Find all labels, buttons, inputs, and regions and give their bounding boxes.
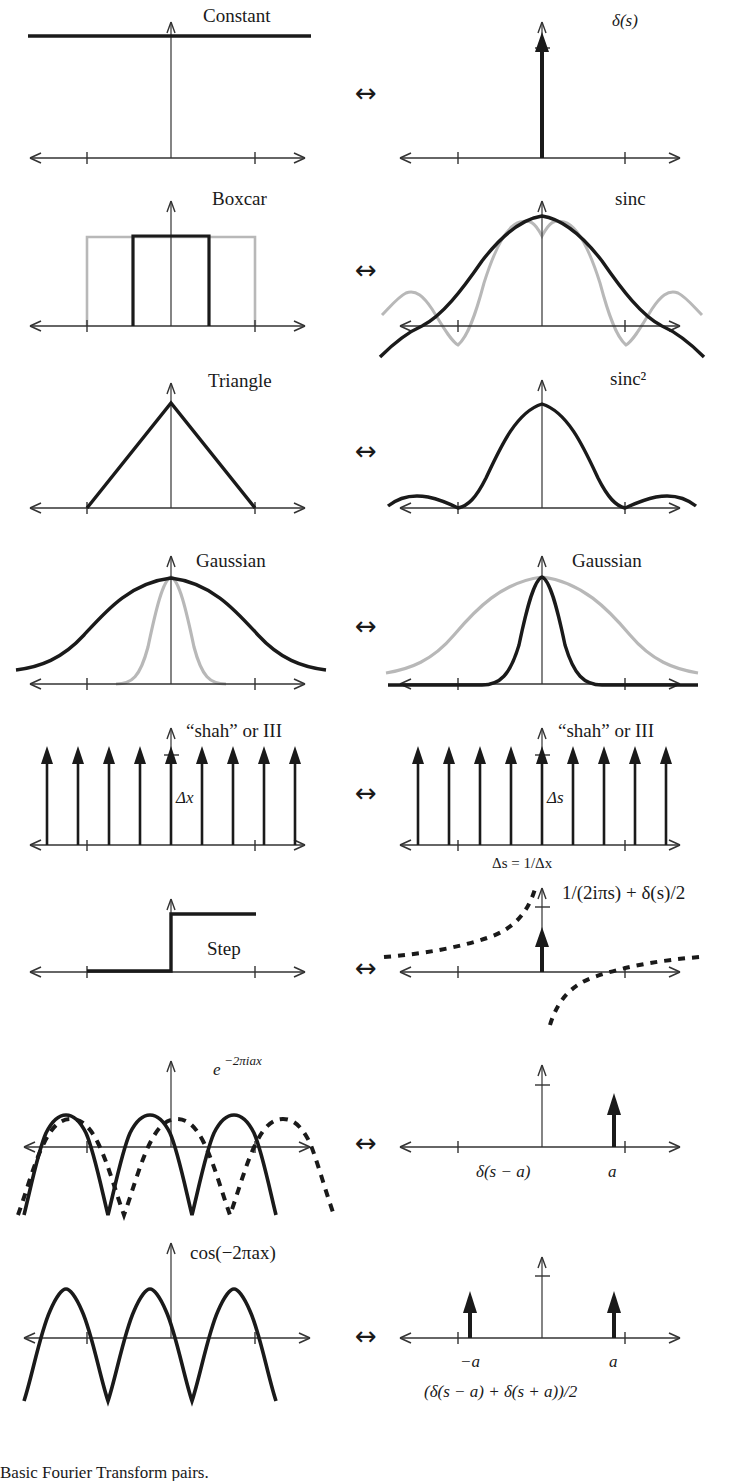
figure-caption: Basic Fourier Transform pairs. <box>0 1466 732 1481</box>
panel-shifted-delta: δ(s − a) a <box>372 1035 732 1205</box>
panel-label-gaussian-s: Gaussian <box>572 550 642 571</box>
panel-complex-exponential: e −2πiax <box>0 1035 360 1205</box>
panel-shah-s: “shah” or III Δs Δs = 1/Δx <box>372 710 732 875</box>
panel-label-triangle: Triangle <box>208 370 272 391</box>
panel-label-gaussian-x: Gaussian <box>196 550 266 571</box>
curve-delta-at-a <box>607 1093 621 1147</box>
axis-group <box>24 1061 310 1153</box>
transform-pair-row-8: cos(−2πax) ↔ <box>0 1205 732 1405</box>
axis-group <box>30 201 305 332</box>
axis-group <box>400 380 680 514</box>
panel-label-step: Step <box>207 938 241 959</box>
axis-group <box>30 383 305 514</box>
transform-pair-row-5: “shah” or III Δx ↔ <box>0 710 732 875</box>
transform-pair-row-2: Boxcar ↔ <box>0 185 732 360</box>
panel-label-constant: Constant <box>203 5 271 26</box>
curve-delta-at-zero <box>535 32 549 158</box>
curve-delta-at-plus-a <box>607 1291 621 1338</box>
curve-delta-at-minus-a <box>463 1291 477 1338</box>
panel-triangle: Triangle <box>0 360 360 535</box>
panel-label-sinc-squared: sinc² <box>610 368 647 389</box>
point-label-negative-a: −a <box>460 1352 480 1371</box>
panel-label-symmetric-delta-pair: (δ(s − a) + δ(s + a))/2 <box>424 1382 578 1401</box>
panel-sinc: sinc <box>372 185 732 360</box>
axis-group <box>400 1065 680 1153</box>
panel-sinc-squared: sinc² <box>372 360 732 535</box>
panel-label-shifted-delta: δ(s − a) <box>476 1162 531 1181</box>
panel-delta-s: δ(s) <box>372 0 732 185</box>
curve-cosine <box>24 1289 276 1401</box>
panel-label-boxcar: Boxcar <box>212 188 268 209</box>
transform-pair-row-4: Gaussian ↔ <box>0 535 732 710</box>
svg-text:−2πiax: −2πiax <box>224 1053 262 1068</box>
panel-label-complex-exponential: e −2πiax <box>213 1053 262 1079</box>
spacing-label-delta-s: Δs <box>546 788 564 807</box>
panel-label-hyperbola-delta: 1/(2iπs) + δ(s)/2 <box>562 882 685 904</box>
panel-shah-x: “shah” or III Δx <box>0 710 360 875</box>
curve-imaginary-part-sine <box>18 1119 334 1215</box>
curve-delta-at-zero <box>535 927 549 972</box>
axis-group <box>30 556 305 690</box>
axis-group <box>30 22 305 164</box>
curve-real-part-cosine <box>24 1115 276 1215</box>
relation-label-delta-s-equals: Δs = 1/Δx <box>492 855 553 871</box>
panel-gaussian-s: Gaussian <box>372 535 732 710</box>
panel-label-shah-s: “shah” or III <box>558 720 654 741</box>
panel-symmetric-delta-pair: −a a (δ(s − a) + δ(s + a))/2 <box>372 1205 732 1405</box>
fourier-transform-pairs-figure: Constant ↔ <box>0 0 732 1481</box>
panel-label-cosine: cos(−2πax) <box>190 1242 276 1264</box>
axis-group <box>30 899 305 978</box>
panel-hyperbola-delta: 1/(2iπs) + δ(s)/2 <box>372 875 732 1035</box>
transform-pair-row-3: Triangle ↔ sinc² <box>0 360 732 535</box>
transform-pair-row-1: Constant ↔ <box>0 0 732 185</box>
svg-text:e: e <box>213 1060 221 1079</box>
point-label-positive-a: a <box>609 1352 618 1371</box>
transform-pair-row-7: e −2πiax ↔ <box>0 1035 732 1205</box>
axis-group <box>400 728 680 851</box>
panel-label-delta-s: δ(s) <box>612 11 638 30</box>
axis-group <box>400 1257 680 1344</box>
panel-label-shah-x: “shah” or III <box>186 720 282 741</box>
figure-caption-text: Basic Fourier Transform pairs. <box>0 1466 209 1481</box>
panel-label-sinc: sinc <box>615 188 646 209</box>
point-label-a: a <box>608 1162 617 1181</box>
panel-gaussian-x: Gaussian <box>0 535 360 710</box>
curve-narrow-gaussian <box>388 577 698 685</box>
panel-constant: Constant <box>0 0 360 185</box>
panel-boxcar: Boxcar <box>0 185 360 360</box>
transform-pair-row-6: Step ↔ <box>0 875 732 1035</box>
panel-step: Step <box>0 875 360 1035</box>
panel-cosine: cos(−2πax) <box>0 1205 360 1405</box>
spacing-label-delta-x: Δx <box>175 788 194 807</box>
curve-impulse-train <box>412 746 672 845</box>
curve-impulse-train <box>41 746 301 845</box>
